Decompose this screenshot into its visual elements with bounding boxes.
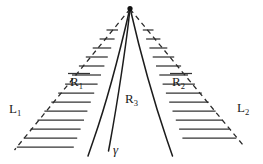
label-r1-base: R xyxy=(70,74,79,89)
label-r2-base: R xyxy=(172,74,181,89)
label-l2: L2 xyxy=(237,100,249,117)
figure-root: L1 R1 R3 R2 L2 xyxy=(0,0,263,164)
hatch-group-right xyxy=(143,30,237,138)
label-l1-base: L xyxy=(9,101,17,116)
label-r3-sub: 3 xyxy=(134,98,138,108)
label-l1-sub: 1 xyxy=(17,108,21,118)
svg-text:L1: L1 xyxy=(9,101,21,118)
svg-text:R1: R1 xyxy=(70,74,83,91)
svg-text:R2: R2 xyxy=(172,74,185,91)
label-r3: R3 xyxy=(125,91,138,108)
label-gamma: γ xyxy=(113,142,119,157)
label-r1-sub: 1 xyxy=(79,81,83,91)
svg-text:R3: R3 xyxy=(125,91,138,108)
label-l2-sub: 2 xyxy=(245,107,249,117)
label-r2-sub: 2 xyxy=(181,81,185,91)
label-r1: R1 xyxy=(68,74,90,92)
label-l2-base: L xyxy=(237,100,245,115)
apex-point xyxy=(127,6,132,11)
label-l1: L1 xyxy=(9,101,21,118)
wedge-diagram-svg: L1 R1 R3 R2 L2 xyxy=(0,0,263,164)
label-r2: R2 xyxy=(170,74,192,92)
label-r3-base: R xyxy=(125,91,134,106)
svg-text:L2: L2 xyxy=(237,100,249,117)
